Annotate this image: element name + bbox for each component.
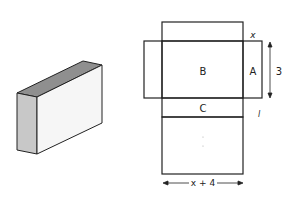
dimension-label-width: x + 4 — [191, 178, 216, 188]
arrowhead-up-icon — [268, 42, 272, 47]
net-left-flap — [144, 41, 162, 98]
arrowhead-left-icon — [163, 181, 168, 185]
cuboid-side-face — [17, 93, 37, 154]
net-top-face — [162, 22, 243, 41]
cuboid — [17, 61, 102, 154]
faint-marks — [202, 136, 203, 146]
dimension-label-l: l — [258, 110, 261, 119]
face-label-a: A — [250, 66, 257, 77]
dimension-label-height: 3 — [276, 66, 282, 77]
arrowhead-right-icon — [238, 181, 243, 185]
height-arrow — [268, 42, 272, 98]
net-bottom-face — [162, 117, 243, 174]
cuboid-and-net-diagram: B A C x 3 l x + 4 — [0, 0, 294, 199]
dimension-label-x: x — [249, 30, 256, 40]
face-label-c: C — [200, 103, 207, 114]
net — [144, 22, 262, 174]
face-label-b: B — [200, 66, 207, 77]
arrowhead-down-icon — [268, 93, 272, 98]
